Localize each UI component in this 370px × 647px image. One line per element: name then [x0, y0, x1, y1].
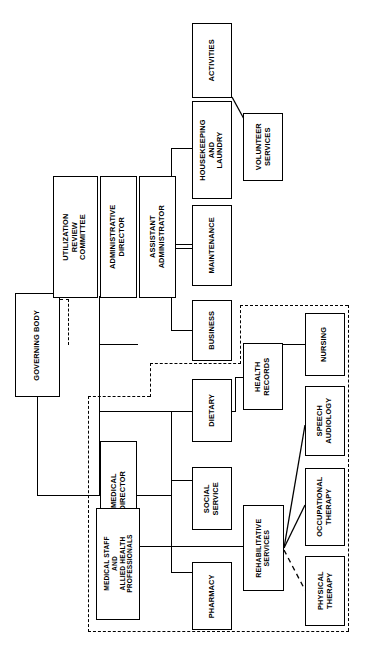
connector-md-to-pharmacy [171, 572, 192, 573]
node-physical-therapy[interactable]: PHYSICALTHERAPY [305, 556, 345, 626]
node-label-utilization-review-committee: UTILIZATIONREVIEWCOMMITTEE [62, 213, 88, 260]
node-medical-staff-allied-health[interactable]: MEDICAL STAFFANDALLIED HEALTHPROFESSIONA… [96, 508, 140, 620]
connector-md-to-social-service [171, 480, 192, 481]
connector-health-records-to-nursing [283, 344, 305, 345]
node-maintenance[interactable]: MAINTENANCE [192, 205, 232, 286]
node-business[interactable]: BUSINESS [192, 300, 232, 361]
group-border-left [88, 396, 89, 632]
node-label-speech-audiology: SPEECHAUDIOLOGY [316, 398, 333, 444]
group-border-bottom [88, 631, 349, 632]
node-label-assistant-administrator: ASSISTANTADMINISTRATOR [149, 205, 166, 268]
node-activities[interactable]: ACTIVITIES [192, 23, 232, 98]
group-border-right [348, 305, 349, 631]
node-label-nursing: NURSING [321, 327, 330, 362]
node-housekeeping-and-laundry[interactable]: HOUSEKEEPINGANDLAUNDRY [192, 101, 232, 199]
node-label-pharmacy: PHARMACY [208, 574, 217, 618]
dashed-connector-governing-to-urc [68, 299, 69, 345]
connector-governing-to-admin [100, 344, 138, 345]
node-label-dietary: DIETARY [208, 394, 217, 427]
node-volunteer-services[interactable]: VOLUNTEERSERVICES [243, 113, 283, 181]
node-occupational-therapy[interactable]: OCCUPATIONALTHERAPY [305, 468, 345, 546]
dashed-connector-governing-to-urc-h [60, 299, 69, 300]
connector-branch-activities [171, 148, 192, 149]
connector-medical-staff-out [137, 546, 243, 547]
node-label-maintenance: MAINTENANCE [208, 217, 217, 273]
connector-admin-director-stub [99, 296, 100, 345]
node-label-business: BUSINESS [208, 311, 217, 350]
node-rehabilitative-services[interactable]: REHABILITATIVESERVICES [243, 505, 284, 591]
node-label-activities: ACTIVITIES [208, 39, 217, 81]
connector-health-records-bus [235, 377, 236, 412]
node-social-service[interactable]: SOCIALSERVICE [192, 467, 232, 530]
node-speech-audiology[interactable]: SPEECHAUDIOLOGY [305, 386, 345, 456]
group-border-top-right [240, 305, 348, 306]
node-label-volunteer-services: VOLUNTEERSERVICES [254, 124, 271, 171]
connector-medical-director-bus [171, 411, 172, 572]
connector-governing-body-down [37, 397, 38, 496]
node-utilization-review-committee[interactable]: UTILIZATIONREVIEWCOMMITTEE [53, 176, 98, 298]
connector-pharmacy-stub [171, 571, 172, 573]
node-label-health-records: HEALTHRECORDS [254, 357, 271, 395]
node-label-governing-body: GOVERNING BODY [33, 310, 42, 381]
node-administrative-director[interactable]: ADMINISTRATIVEDIRECTOR [100, 176, 137, 298]
node-label-rehabilitative-services: REHABILITATIVESERVICES [255, 518, 272, 577]
node-health-records[interactable]: HEALTHRECORDS [243, 343, 283, 410]
connector-health-records-left [235, 377, 243, 378]
connector-branch-business [171, 330, 192, 331]
connector-governing-to-medical-director [37, 495, 100, 496]
node-assistant-administrator[interactable]: ASSISTANTADMINISTRATOR [139, 176, 176, 298]
node-label-social-service: SOCIALSERVICE [203, 482, 220, 515]
connector-md-to-dietary [171, 411, 192, 412]
group-border-top-left [88, 396, 150, 397]
node-governing-body[interactable]: GOVERNING BODY [15, 293, 60, 397]
node-label-occupational-therapy: OCCUPATIONALTHERAPY [316, 477, 333, 537]
group-border-step-vertical-2 [240, 305, 241, 364]
group-border-step-vertical [150, 363, 151, 397]
org-chart: GOVERNING BODY UTILIZATIONREVIEWCOMMITTE… [0, 0, 370, 647]
node-label-physical-therapy: PHYSICALTHERAPY [316, 572, 333, 611]
group-border-top-middle [150, 363, 241, 364]
node-label-administrative-director: ADMINISTRATIVEDIRECTOR [110, 205, 127, 269]
node-label-medical-staff-allied-health: MEDICAL STAFFANDALLIED HEALTHPROFESSIONA… [102, 535, 133, 593]
node-nursing[interactable]: NURSING [305, 313, 345, 376]
node-label-medical-director: MEDICALDIRECTOR [110, 471, 127, 511]
node-dietary[interactable]: DIETARY [192, 379, 232, 442]
connector-activities-stub-v [171, 148, 172, 149]
node-pharmacy[interactable]: PHARMACY [192, 562, 232, 630]
connector-medical-director-out [137, 495, 171, 496]
node-label-housekeeping-and-laundry: HOUSEKEEPINGANDLAUNDRY [199, 119, 225, 180]
